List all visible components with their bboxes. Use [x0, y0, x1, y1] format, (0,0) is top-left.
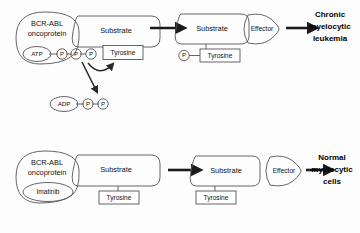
phosphate-node-2-label: P [74, 50, 78, 57]
adp-phosphate-node-1-label: P [86, 100, 90, 107]
adp-release-arrow [82, 62, 97, 92]
imatinib-label: Imatinib [36, 188, 59, 195]
adp-label: ADP [58, 100, 71, 107]
substrate-right-row2-label: Substrate [210, 166, 242, 175]
phosphate-node-1-label: P [60, 50, 64, 57]
oncoprotein-row2-line1: BCR-ABL [31, 158, 63, 167]
oncoprotein-row1-line2: oncoprotein [28, 29, 67, 38]
figure-canvas: Substrate BCR-ABL oncoprotein ATP P P P … [0, 0, 360, 233]
outcome-row1-line3: leukemia [313, 34, 348, 43]
outcome-row1-line2: myelocytic [309, 22, 351, 31]
oncoprotein-row1-line1: BCR-ABL [31, 19, 63, 28]
oncoprotein-row2-line2: oncoprotein [28, 168, 67, 177]
phosphorylation-curved-arrow [88, 63, 113, 71]
tyrosine-box-right-row1-label: Tyrosine [208, 52, 233, 60]
substrate-left-row1-label: Substrate [100, 26, 132, 35]
outcome-row1-line1: Chronic [315, 10, 346, 19]
pathway-diagram: Substrate BCR-ABL oncoprotein ATP P P P … [0, 0, 360, 233]
tyrosine-box-left-row1-label: Tyrosine [111, 49, 136, 57]
substrate-left-row2-label: Substrate [100, 165, 132, 174]
outcome-row2-line2: myelocytic [311, 165, 353, 174]
atp-label: ATP [31, 50, 43, 57]
outcome-row2-line3: cells [323, 177, 341, 186]
outcome-row2-line1: Normal [318, 153, 346, 162]
tyrosine-box-left-row2-label: Tyrosine [107, 194, 132, 202]
adp-phosphate-node-2-label: P [101, 100, 105, 107]
phospho-marker-row1-label: P [182, 51, 186, 58]
phosphate-node-3-label: P [89, 50, 93, 57]
effector-row1-label: Effector [251, 25, 274, 32]
substrate-right-row1-label: Substrate [196, 24, 228, 33]
tyrosine-box-right-row2-label: Tyrosine [204, 194, 229, 202]
effector-row2-label: Effector [273, 167, 296, 174]
